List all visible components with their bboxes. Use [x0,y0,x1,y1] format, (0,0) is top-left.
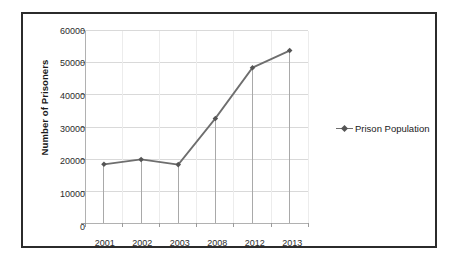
x-axis-tick-label: 2003 [170,239,190,248]
x-axis-tick-label: 2002 [132,239,152,248]
x-axis-tick-label: 2008 [207,239,227,248]
chart-legend: Prison Population [336,123,429,134]
x-axis-tick-label: 2013 [282,239,302,248]
x-axis-tick-label: 2012 [245,239,265,248]
legend-line-marker-icon [336,124,353,133]
legend-entry-label: Prison Population [355,123,429,134]
x-axis-tick-label: 2001 [95,239,115,248]
chart-frame: Number of Prisoners 01000020000300004000… [21,12,437,248]
